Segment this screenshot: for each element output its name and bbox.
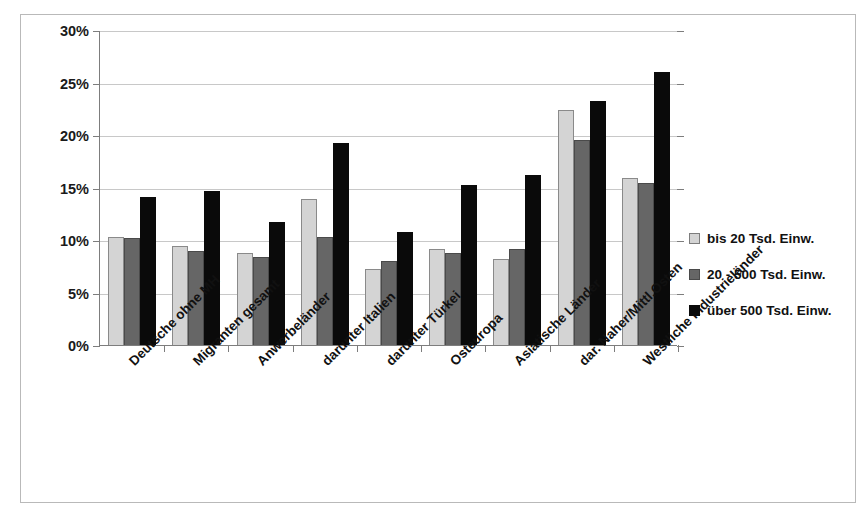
x-axis-tick (421, 345, 422, 352)
y-axis-tick (93, 189, 100, 190)
legend-item[interactable]: bis 20 Tsd. Einw. (689, 220, 854, 256)
legend-item-label: über 500 Tsd. Einw. (707, 303, 832, 318)
y-axis-tick (93, 346, 100, 347)
x-axis-tick (164, 345, 165, 352)
chart-frame: 0%5%10%15%20%25%30% Deutsche ohne MHMigr… (20, 14, 856, 503)
y-axis-tick (93, 241, 100, 242)
legend-swatch-icon (689, 233, 700, 244)
bar (140, 197, 156, 345)
y-axis-tick (677, 84, 684, 85)
x-axis-tick (228, 345, 229, 352)
bar (574, 140, 590, 345)
bar (654, 72, 670, 345)
y-axis-tick-label: 0% (68, 338, 89, 354)
legend-item[interactable]: 20 - 500 Tsd. Einw. (689, 256, 854, 292)
bar (525, 175, 541, 345)
x-axis-tick (357, 345, 358, 352)
y-axis-tick-label: 30% (60, 23, 89, 39)
y-axis-tick (677, 189, 684, 190)
bar-group (485, 31, 549, 345)
x-axis-tick (614, 345, 615, 352)
x-axis-tick (550, 345, 551, 352)
y-axis-tick-label: 5% (68, 286, 89, 302)
y-axis-tick (677, 294, 684, 295)
y-axis-tick-label: 15% (60, 181, 89, 197)
bar (493, 259, 509, 345)
bar (509, 249, 525, 345)
legend-item-label: 20 - 500 Tsd. Einw. (707, 267, 826, 282)
y-axis-tick (93, 136, 100, 137)
bar (590, 101, 606, 345)
y-axis-tick (93, 294, 100, 295)
legend-item-label: bis 20 Tsd. Einw. (707, 231, 814, 246)
bar-group (100, 31, 164, 345)
y-axis-tick (93, 31, 100, 32)
bar (108, 237, 124, 345)
y-axis-tick (677, 31, 684, 32)
legend-swatch-icon (689, 269, 700, 280)
x-axis-tick (293, 345, 294, 352)
bar (638, 183, 654, 345)
y-axis-tick-label: 20% (60, 128, 89, 144)
bar (333, 143, 349, 345)
chart-legend: bis 20 Tsd. Einw.20 - 500 Tsd. Einw.über… (689, 220, 854, 328)
bar (461, 185, 477, 345)
legend-item[interactable]: über 500 Tsd. Einw. (689, 292, 854, 328)
y-axis-tick (677, 136, 684, 137)
bar (204, 191, 220, 345)
y-axis-tick (93, 84, 100, 85)
y-axis-tick (677, 241, 684, 242)
x-axis-tick (678, 345, 679, 352)
y-axis-tick-label: 10% (60, 233, 89, 249)
bar (124, 238, 140, 345)
bar (397, 232, 413, 345)
x-axis-tick (485, 345, 486, 352)
y-axis-tick-label: 25% (60, 76, 89, 92)
legend-swatch-icon (689, 305, 700, 316)
